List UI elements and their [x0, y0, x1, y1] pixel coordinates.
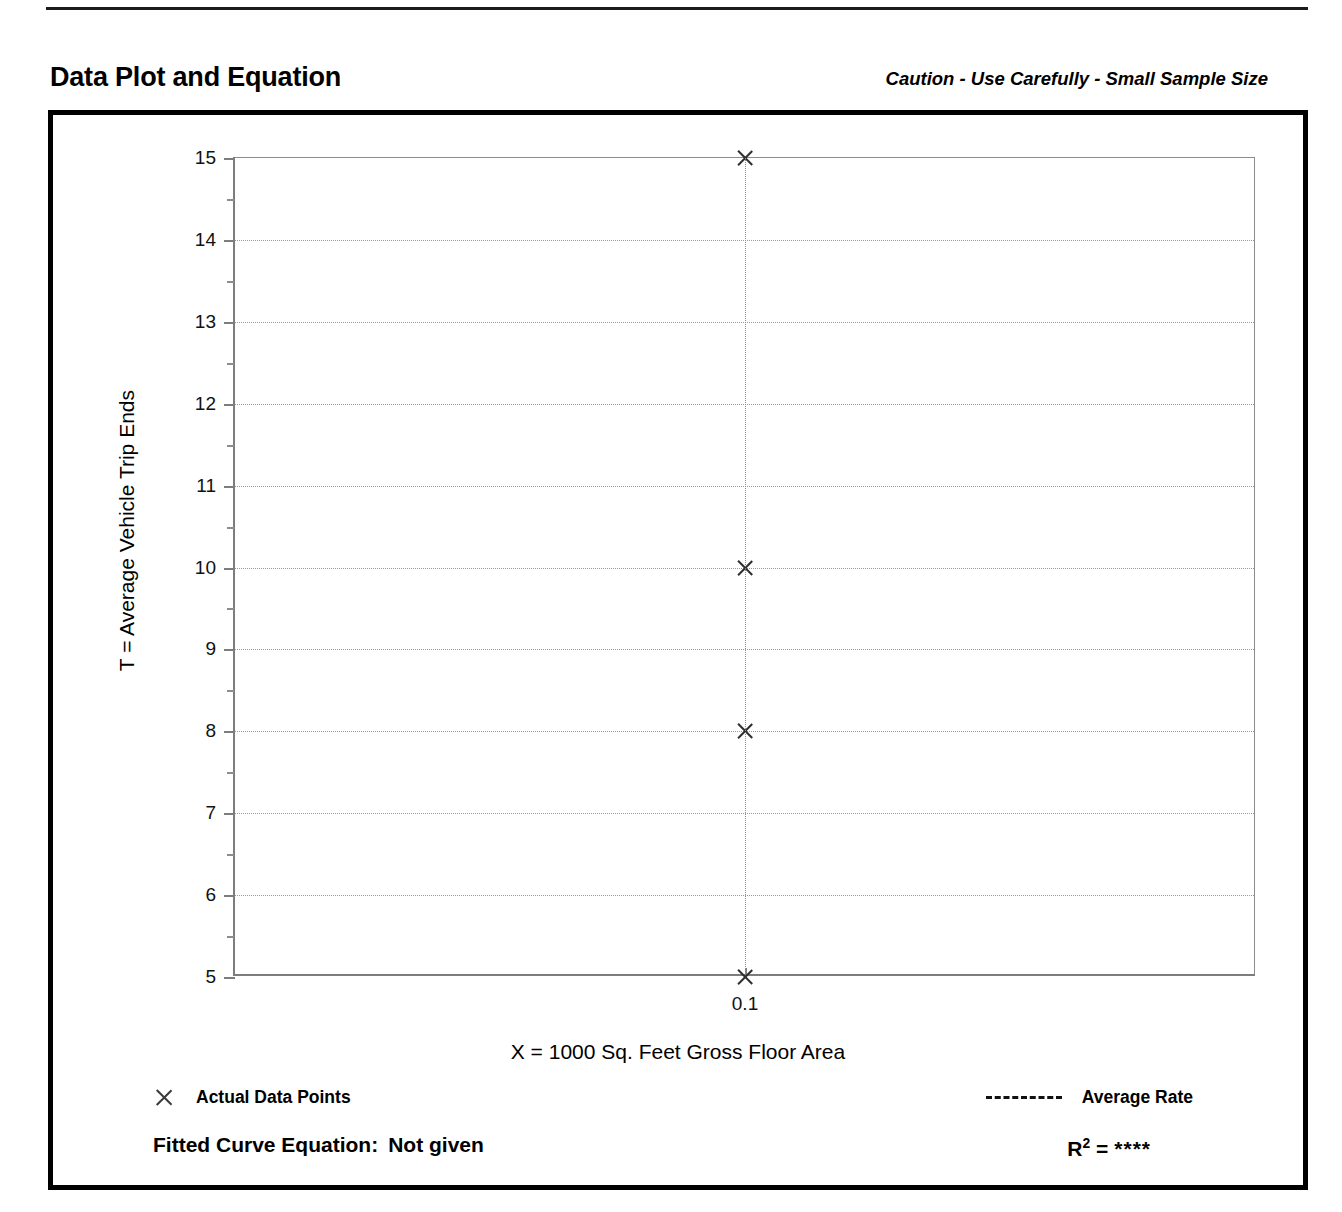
gridline-horizontal	[234, 486, 1254, 487]
gridline-horizontal	[234, 649, 1254, 650]
y-axis-tick	[224, 813, 235, 815]
y-axis-tick-label: 8	[205, 720, 216, 742]
x-marker-icon	[153, 1087, 174, 1108]
y-axis-minor-tick	[227, 363, 234, 365]
y-axis-minor-tick	[227, 854, 234, 856]
y-axis-tick	[224, 649, 235, 651]
chart-panel: T = Average Vehicle Trip Ends 5678910111…	[48, 110, 1308, 1190]
y-axis-tick	[224, 158, 235, 160]
legend-label-actual-data-points: Actual Data Points	[196, 1087, 351, 1108]
y-axis-tick	[224, 240, 235, 242]
r-squared: R2 =****	[1067, 1135, 1151, 1161]
y-axis-minor-tick	[227, 199, 234, 201]
fitted-curve-equation-value: Not given	[388, 1133, 484, 1156]
y-axis-tick-label: 6	[205, 884, 216, 906]
y-axis-tick	[224, 486, 235, 488]
r-squared-exponent: 2	[1082, 1135, 1090, 1151]
legend-label-average-rate: Average Rate	[1082, 1087, 1193, 1108]
gridline-horizontal	[234, 322, 1254, 323]
y-axis-tick-label: 9	[205, 638, 216, 660]
caution-note: Caution - Use Carefully - Small Sample S…	[886, 68, 1268, 90]
top-divider-rule	[46, 7, 1308, 10]
y-axis-tick	[224, 404, 235, 406]
y-axis-minor-tick	[227, 936, 234, 938]
fitted-curve-equation: Fitted Curve Equation:Not given	[153, 1133, 484, 1157]
gridline-horizontal	[234, 895, 1254, 896]
y-axis-spine	[233, 157, 235, 976]
y-axis-tick	[224, 977, 235, 979]
y-axis-minor-tick	[227, 281, 234, 283]
y-axis-tick-label: 5	[205, 966, 216, 988]
r-squared-value: ****	[1114, 1137, 1151, 1160]
gridline-horizontal	[234, 240, 1254, 241]
legend-item-average-rate: Average Rate	[986, 1087, 1193, 1108]
equation-row: Fitted Curve Equation:Not given R2 =****	[53, 1133, 1303, 1179]
y-axis-minor-tick	[227, 608, 234, 610]
plot-wrapper: 567891011121314150.1	[233, 157, 1255, 976]
average-rate-line	[745, 158, 746, 975]
y-axis-tick	[224, 895, 235, 897]
header: Data Plot and Equation Caution - Use Car…	[0, 62, 1342, 102]
y-axis-minor-tick	[227, 690, 234, 692]
x-axis-tick-label: 0.1	[732, 993, 758, 1015]
y-axis-tick-label: 12	[195, 393, 216, 415]
legend-item-actual-data-points: Actual Data Points	[153, 1087, 351, 1108]
y-axis-tick-label: 10	[195, 557, 216, 579]
y-axis-tick-label: 7	[205, 802, 216, 824]
r-squared-label: R	[1067, 1137, 1082, 1160]
y-axis-tick-label: 13	[195, 311, 216, 333]
gridline-horizontal	[234, 813, 1254, 814]
y-axis-tick-label: 11	[196, 475, 216, 497]
plot-area: 567891011121314150.1	[233, 157, 1255, 976]
y-axis-minor-tick	[227, 445, 234, 447]
page-title: Data Plot and Equation	[50, 62, 341, 93]
y-axis-tick-label: 15	[195, 147, 216, 169]
y-axis-title: T = Average Vehicle Trip Ends	[115, 390, 139, 671]
y-axis-minor-tick	[227, 772, 234, 774]
dashed-line-icon	[986, 1096, 1062, 1099]
y-axis-tick-label: 14	[195, 229, 216, 251]
y-axis-tick	[224, 568, 235, 570]
x-axis-title: X = 1000 Sq. Feet Gross Floor Area	[53, 1040, 1303, 1064]
r-squared-equals: =	[1096, 1137, 1108, 1160]
legend: Actual Data Points Average Rate	[53, 1087, 1303, 1127]
y-axis-minor-tick	[227, 527, 234, 529]
fitted-curve-equation-label: Fitted Curve Equation:	[153, 1133, 378, 1156]
y-axis-tick	[224, 322, 235, 324]
gridline-horizontal	[234, 404, 1254, 405]
y-axis-tick	[224, 731, 235, 733]
